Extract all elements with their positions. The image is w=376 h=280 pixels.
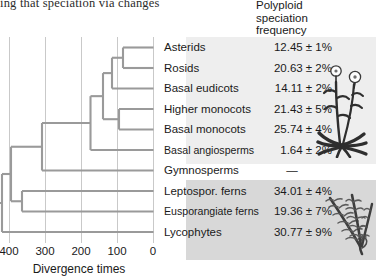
lineage-label: Basal monocots xyxy=(164,119,256,140)
lineage-label: Gymnosperms xyxy=(164,160,256,181)
lineage-label: Lycophytes xyxy=(164,222,256,243)
lineage-label: Basal eudicots xyxy=(164,78,256,99)
figure-root: ing that speciation via changes xyxy=(0,0,376,280)
fern-illustration xyxy=(316,182,374,256)
flowering-plant-illustration xyxy=(316,48,374,158)
lineage-label: Asterids xyxy=(164,37,256,58)
lineage-label: Leptospor. ferns xyxy=(164,181,256,202)
lineage-label: Rosids xyxy=(164,58,256,79)
lineage-label: Higher monocots xyxy=(164,99,256,120)
frequency-value: — xyxy=(258,160,326,181)
lineage-label: Eusporangiate ferns xyxy=(164,201,256,222)
table-row: Gymnosperms — xyxy=(164,160,376,181)
lineage-label: Basal angiosperms xyxy=(164,140,256,161)
